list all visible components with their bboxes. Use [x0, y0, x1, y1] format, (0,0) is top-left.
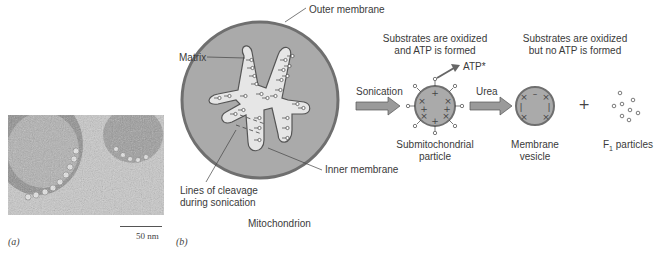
plus-sign: + [578, 96, 590, 112]
atp-label: ATP* [463, 61, 486, 72]
mitochondrion [182, 8, 338, 182]
svg-text:+: + [431, 116, 439, 126]
svg-text:+: + [431, 88, 439, 98]
sonication-label: Sonication [356, 86, 403, 97]
f1-particles-label: F1 particles [603, 139, 653, 154]
svg-text:×: × [542, 112, 550, 122]
urea-label: Urea [476, 86, 498, 97]
step1-caption-line2: and ATP is formed [380, 45, 490, 56]
cleavage-label-line1: Lines of cleavage [180, 185, 258, 196]
matrix-label: Matrix [179, 52, 206, 63]
submitochondrial-label-line2: particle [390, 151, 480, 162]
step1-caption-line1: Substrates are oxidized [380, 33, 490, 44]
svg-text:×: × [442, 111, 450, 121]
cleavage-label-line2: during sonication [180, 197, 256, 208]
svg-text:|: | [547, 102, 550, 112]
membrane-vesicle-label-line2: vesicle [500, 151, 570, 162]
membrane-vesicle-label-line1: Membrane [500, 139, 570, 150]
svg-text:×: × [542, 92, 550, 102]
svg-text:×: × [420, 111, 428, 121]
svg-text:×: × [520, 92, 528, 102]
urea-arrow [470, 97, 512, 115]
svg-text:–: – [533, 89, 538, 99]
inner-membrane-label: Inner membrane [325, 164, 398, 175]
outer-membrane-label: Outer membrane [309, 4, 385, 15]
step2-caption-line1: Substrates are oxidized [520, 33, 630, 44]
svg-text:×: × [520, 112, 528, 122]
svg-text:|: | [519, 102, 522, 112]
submitochondrial-particle: +×× ++× ×+ [406, 64, 463, 135]
membrane-vesicle: –×× ||× × [516, 87, 554, 125]
step2-caption-line2: but no ATP is formed [520, 45, 630, 56]
submitochondrial-label-line1: Submitochondrial [390, 139, 480, 150]
f1-particles [612, 91, 640, 122]
mitochondrion-title: Mitochondrion [248, 218, 311, 229]
sonication-arrow [356, 97, 400, 115]
